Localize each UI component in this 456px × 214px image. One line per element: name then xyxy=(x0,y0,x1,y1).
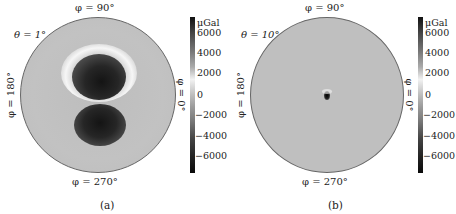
panel-b: φ = 90° θ = 10° φ = 180° φ = 0° φ = 270°… xyxy=(228,0,456,214)
phi-bottom-label: φ = 270° xyxy=(72,177,118,187)
tick-neg4000: −4000 xyxy=(423,131,455,141)
blob-upper xyxy=(72,54,126,100)
tick-neg2000: −2000 xyxy=(195,110,227,120)
phi-left-label: φ = 180° xyxy=(6,72,16,118)
phi-right-label: φ = 0° xyxy=(176,78,186,111)
polar-disk-b xyxy=(250,17,404,173)
tick-4000: 4000 xyxy=(425,48,449,58)
tick-2000: 2000 xyxy=(425,68,449,78)
tick-0: 0 xyxy=(425,90,431,100)
phi-right-label: φ = 0° xyxy=(404,78,414,111)
caption-a: (a) xyxy=(100,199,114,211)
tick-6000: 6000 xyxy=(425,28,449,38)
tick-neg6000: −6000 xyxy=(195,151,227,161)
polar-disk-a xyxy=(20,17,176,173)
tick-4000: 4000 xyxy=(197,48,221,58)
caption-b: (b) xyxy=(328,199,343,211)
phi-left-label: φ = 180° xyxy=(236,72,246,118)
blob-lower xyxy=(74,104,126,146)
tick-2000: 2000 xyxy=(197,68,221,78)
tick-6000: 6000 xyxy=(197,28,221,38)
dipole-halo xyxy=(322,89,332,94)
phi-top-label: φ = 90° xyxy=(75,3,114,13)
phi-top-label: φ = 90° xyxy=(305,3,344,13)
tick-neg4000: −4000 xyxy=(195,131,227,141)
tick-0: 0 xyxy=(197,90,203,100)
theta-label: θ = 1° xyxy=(14,30,46,40)
panel-a: φ = 90° θ = 1° φ = 180° φ = 0° φ = 270° … xyxy=(0,0,228,214)
phi-bottom-label: φ = 270° xyxy=(302,177,348,187)
tick-neg6000: −6000 xyxy=(423,151,455,161)
tick-neg2000: −2000 xyxy=(423,110,455,120)
